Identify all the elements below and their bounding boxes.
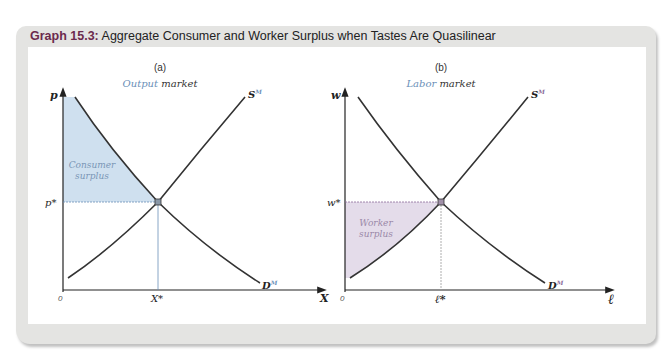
l-axis-label: ℓ <box>608 291 614 307</box>
panel-a-label: (a) <box>154 62 166 73</box>
x-axis-label: X <box>319 292 329 305</box>
equilibrium-point-a <box>155 199 161 205</box>
p-star-label: p* <box>45 197 56 208</box>
panel-b-labor-market: (b) Labor market Worker surplus w w* 0 ℓ… <box>327 62 614 307</box>
worker-surplus-label-1: Worker <box>359 218 393 228</box>
origin-b: 0 <box>340 294 345 303</box>
p-axis-label: p <box>50 89 58 102</box>
consumer-surplus-label-1: Consumer <box>69 160 116 170</box>
demand-label-b: DM <box>547 279 564 291</box>
w-star-label: w* <box>327 197 341 208</box>
w-axis-label: w <box>331 89 341 102</box>
panel-a-subtitle: Output market <box>123 78 199 89</box>
panel-b-label: (b) <box>435 62 447 73</box>
charts-canvas: (a) Output market Consumer surplus p p* … <box>0 0 669 361</box>
demand-label-a: DM <box>261 279 278 291</box>
supply-label-a: SM <box>248 88 262 100</box>
worker-surplus-area <box>345 202 441 278</box>
l-star-label: ℓ* <box>435 293 446 306</box>
consumer-surplus-label-2: surplus <box>75 171 109 181</box>
origin-a: 0 <box>58 294 63 303</box>
panel-b-subtitle: Labor market <box>405 78 476 89</box>
panel-a-output-market: (a) Output market Consumer surplus p p* … <box>45 62 329 305</box>
x-star-label: X* <box>150 293 163 304</box>
equilibrium-point-b <box>438 199 444 205</box>
supply-label-b: SM <box>531 88 545 100</box>
worker-surplus-label-2: surplus <box>359 229 393 239</box>
